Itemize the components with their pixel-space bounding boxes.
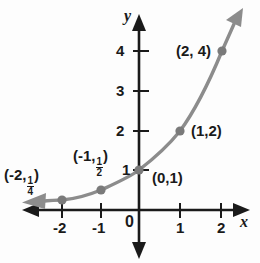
data-point-one	[175, 126, 184, 135]
data-point-zero	[134, 165, 143, 174]
x-tick-label-2: 2	[217, 220, 225, 235]
point-label-two: (2, 4)	[176, 43, 211, 58]
x-tick-label-1: 1	[176, 220, 184, 235]
data-point-two	[217, 46, 226, 55]
exponential-curve-group	[22, 8, 243, 209]
point-label-neg1: (-1,12)	[73, 148, 108, 179]
point-label-neg2-open: (-2,	[4, 166, 27, 183]
data-point-neg2	[57, 195, 66, 204]
y-axis-label: y	[124, 8, 131, 24]
y-tick-label-4: 4	[116, 43, 124, 58]
origin-label: 0	[125, 214, 134, 230]
y-axis-top-arrow-icon	[132, 14, 146, 31]
point-label-neg1-fraction: 12	[96, 157, 104, 179]
point-label-neg2-fraction: 14	[27, 176, 35, 198]
point-label-neg2-close: )	[34, 166, 39, 183]
point-label-neg2: (-2,14)	[4, 167, 39, 198]
y-tick-label-2: 2	[116, 123, 124, 138]
point-label-one: (1,2)	[191, 123, 222, 138]
x-tick-label-neg2: -2	[53, 220, 66, 235]
point-label-neg1-close: )	[103, 147, 108, 164]
fraction-denominator: 2	[96, 167, 104, 178]
y-tick-label-1: 1	[122, 162, 130, 177]
fraction-numerator: 1	[96, 157, 104, 167]
x-tick-label-neg1: -1	[92, 220, 105, 235]
exponential-function-graph: 4 3 2 1 -2 -1 1 2 0 y x (-2,14) (-1,12) …	[0, 0, 260, 263]
y-tick-label-3: 3	[116, 83, 124, 98]
x-axis-label: x	[240, 214, 248, 230]
y-axis-bottom-arrow-icon	[132, 242, 146, 259]
fraction-denominator: 4	[27, 186, 35, 197]
point-label-zero: (0,1)	[152, 170, 183, 185]
point-label-neg1-open: (-1,	[73, 147, 96, 164]
data-point-neg1	[96, 185, 105, 194]
fraction-numerator: 1	[27, 176, 35, 186]
